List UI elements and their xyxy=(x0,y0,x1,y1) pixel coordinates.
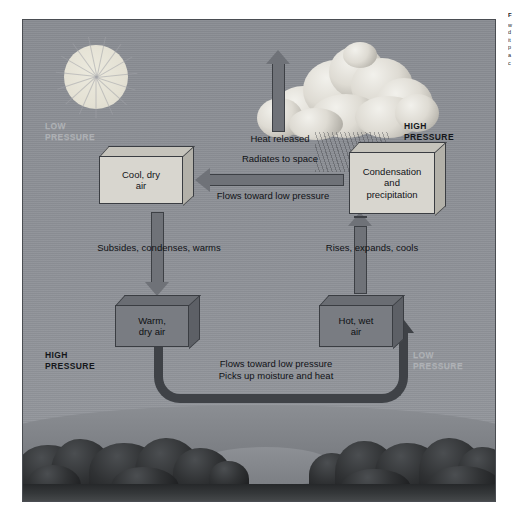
caption-radiates-to-space: Radiates to space xyxy=(200,153,360,165)
foreground-shore xyxy=(23,484,495,501)
side-caption-line: a xyxy=(508,52,524,60)
pressure-label-low-bottom-right: LOW PRESSURE xyxy=(413,350,463,371)
pressure-label-low-top-left: LOW PRESSURE xyxy=(45,121,95,142)
caption-heat-released: Heat released xyxy=(206,133,354,145)
side-caption-line: it xyxy=(508,37,524,45)
arrow-rises-shaft xyxy=(354,226,367,294)
illustration-panel: LOW PRESSURE HIGH PRESSURE HIGH PRESSURE… xyxy=(22,19,496,502)
caption-rises-expands-cools: Rises, expands, cools xyxy=(301,242,443,254)
caption-surface-flow: Flows toward low pressure Picks up moist… xyxy=(173,358,379,382)
figure-canvas: LOW PRESSURE HIGH PRESSURE HIGH PRESSURE… xyxy=(0,0,524,520)
side-caption-title: F xyxy=(508,12,524,20)
box-cool-dry-air-label: Cool, dry air xyxy=(99,156,183,204)
side-caption-line: p xyxy=(508,44,524,52)
arrow-subsides-head xyxy=(145,282,169,296)
caption-subsides-condenses-warms: Subsides, condenses, warms xyxy=(71,242,247,254)
pressure-label-high-bottom-left: HIGH PRESSURE xyxy=(45,350,95,371)
caption-flows-toward-low-pressure-top: Flows toward low pressure xyxy=(196,190,350,202)
box-cool-dry-air: Cool, dry air xyxy=(99,146,193,204)
side-caption-line: c xyxy=(508,60,524,68)
box-condensation-label: Condensation and precipitation xyxy=(349,152,435,214)
arrow-rises-head xyxy=(348,212,372,226)
box-warm-dry-air-label: Warm, dry air xyxy=(115,305,189,347)
sun-icon xyxy=(64,45,128,109)
arrow-into-condensation-shaft xyxy=(354,216,367,218)
box-hot-wet-air-label: Hot, wet air xyxy=(319,305,393,347)
side-caption-line: w xyxy=(508,22,524,30)
box-condensation-precipitation: Condensation and precipitation xyxy=(349,142,445,214)
pressure-label-high-top-right: HIGH PRESSURE xyxy=(404,121,454,142)
side-caption: F w d it p a c xyxy=(508,12,524,67)
arrow-upper-flow-shaft xyxy=(209,174,344,186)
arrow-heat-released-head xyxy=(266,50,290,64)
arrow-upper-flow-head xyxy=(195,168,210,192)
box-warm-dry-air: Warm, dry air xyxy=(115,295,199,347)
landscape-photo xyxy=(23,405,495,501)
arrow-heat-released-shaft xyxy=(272,62,285,132)
box-hot-wet-air: Hot, wet air xyxy=(319,295,403,347)
side-caption-line: d xyxy=(508,29,524,37)
